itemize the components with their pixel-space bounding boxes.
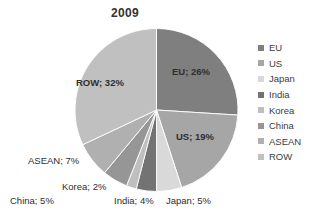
legend-item-us[interactable]: US <box>258 56 318 72</box>
slice-label-row: ROW; 32% <box>76 77 124 88</box>
legend-item-label: India <box>269 89 290 100</box>
slice-label-japan: Japan; 5% <box>166 195 211 206</box>
legend-swatch-icon <box>258 154 264 160</box>
slice-label-korea: Korea; 2% <box>62 181 106 192</box>
pie-chart-figure: 2009 EU; 26% US; 19% ROW; 32% ASEAN; 7% … <box>0 0 319 220</box>
legend-item-label: ROW <box>269 151 292 162</box>
slice-label-us: US; 19% <box>176 131 214 142</box>
legend-swatch-icon <box>258 138 264 144</box>
legend-swatch-icon <box>258 60 264 66</box>
legend-swatch-icon <box>258 107 264 113</box>
slice-label-asean: ASEAN; 7% <box>28 155 79 166</box>
legend-item-row[interactable]: ROW <box>258 149 318 165</box>
legend-item-label: EU <box>269 42 282 53</box>
legend-swatch-icon <box>258 45 264 51</box>
pie-slices-group <box>75 28 238 191</box>
legend-swatch-icon <box>258 123 264 129</box>
legend-swatch-icon <box>258 92 264 98</box>
chart-legend: EUUSJapanIndiaKoreaChinaASEANROW <box>258 40 318 165</box>
slice-label-india: India; 4% <box>114 195 154 206</box>
legend-item-korea[interactable]: Korea <box>258 102 318 118</box>
legend-item-label: Japan <box>269 73 295 84</box>
slice-label-china: China; 5% <box>10 195 54 206</box>
legend-item-label: China <box>269 120 294 131</box>
legend-swatch-icon <box>258 76 264 82</box>
legend-item-japan[interactable]: Japan <box>258 71 318 87</box>
legend-item-asean[interactable]: ASEAN <box>258 134 318 150</box>
slice-label-eu: EU; 26% <box>172 66 210 77</box>
legend-item-china[interactable]: China <box>258 118 318 134</box>
legend-item-label: ASEAN <box>269 136 301 147</box>
legend-item-label: US <box>269 58 282 69</box>
legend-item-eu[interactable]: EU <box>258 40 318 56</box>
legend-item-label: Korea <box>269 105 294 116</box>
legend-item-india[interactable]: India <box>258 87 318 103</box>
